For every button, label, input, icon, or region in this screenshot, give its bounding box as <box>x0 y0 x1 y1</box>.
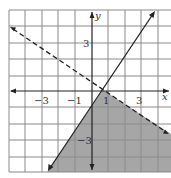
x-tick-label: 3 <box>136 95 142 106</box>
graph: −3 −1 1 3 x 3 −3 y <box>0 0 171 178</box>
x-axis-arrow-left <box>10 89 16 94</box>
x-tick-label: −3 <box>34 95 49 106</box>
solid-line-arrow-top <box>149 11 155 18</box>
y-tick-label: −3 <box>77 135 92 146</box>
x-axis-label: x <box>162 91 168 102</box>
x-tick-label: 1 <box>103 95 109 106</box>
y-axis-arrow-up <box>90 12 95 18</box>
y-axis-label: y <box>94 10 101 21</box>
y-tick-label: 3 <box>83 38 89 49</box>
x-tick-label: −1 <box>67 95 82 106</box>
